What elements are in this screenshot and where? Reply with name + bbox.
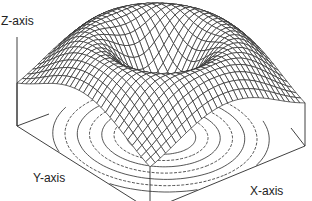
surface-mesh xyxy=(17,3,305,167)
x-axis-label: X-axis xyxy=(250,184,283,198)
y-axis-label: Y-axis xyxy=(33,171,65,185)
z-axis-label: Z-axis xyxy=(1,14,34,28)
